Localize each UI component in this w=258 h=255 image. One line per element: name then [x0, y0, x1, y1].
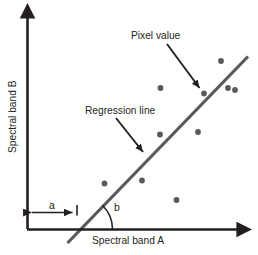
data-point — [174, 197, 180, 203]
data-point — [218, 58, 224, 64]
data-point — [102, 181, 108, 187]
data-point — [158, 85, 164, 91]
pixel-value-label: Pixel value — [131, 30, 181, 41]
data-point — [225, 85, 231, 91]
angle-label: b — [114, 201, 120, 213]
data-point — [232, 87, 238, 93]
figure-background — [0, 0, 258, 255]
data-point — [139, 178, 145, 184]
data-point — [195, 129, 201, 135]
intercept-label: a — [49, 199, 55, 211]
y-axis-label: Spectral band B — [7, 80, 18, 153]
regression-diagram: Pixel value Regression line a b Spectral… — [0, 0, 258, 255]
data-point — [201, 91, 207, 97]
regression-line-label: Regression line — [85, 105, 156, 116]
x-axis-label: Spectral band A — [92, 235, 164, 246]
data-point — [157, 132, 163, 138]
